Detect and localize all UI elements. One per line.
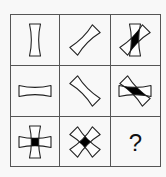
cell-5-diagonal-bar [70, 76, 100, 106]
concave-bar-icon [30, 24, 41, 56]
cell-1-vertical-bar [30, 24, 41, 56]
cell-2-diagonal-bar [70, 25, 100, 55]
cell-8-x-bars [70, 127, 100, 157]
concave-bar-icon [70, 25, 100, 55]
cell-3-overlay-bars [120, 24, 150, 56]
concave-bar-icon [19, 86, 51, 97]
cell-4-horizontal-bar [19, 86, 51, 97]
puzzle-grid: ? [0, 0, 166, 177]
concave-bar-icon [70, 76, 100, 106]
cell-7-cross-bars [19, 126, 51, 158]
cell-6-overlay-bars [119, 76, 151, 106]
question-mark: ? [129, 129, 142, 156]
